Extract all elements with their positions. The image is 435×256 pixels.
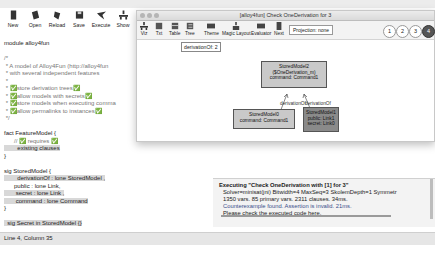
highlighted-field: derivationOf : lone StoredModel ,	[4, 175, 105, 181]
code-line: public : lone Link,	[4, 183, 136, 191]
code-comment-line: /*	[4, 55, 136, 63]
code-line: secret : lone Link ,	[4, 190, 136, 198]
instance-button-3[interactable]: 3	[409, 25, 422, 38]
table-button[interactable]: Table	[169, 22, 180, 36]
magic-layout-button[interactable]: Magic Layout	[222, 22, 251, 36]
graph-node-storedmodel1[interactable]: StoredModel1 public: Link1 secret: Link0	[303, 107, 339, 132]
node-field: secret: Link0	[304, 121, 338, 127]
code-comment-line: * ✅store derivation trees✅	[4, 85, 136, 93]
node-field: command: Command1	[234, 118, 294, 124]
code-comment-line: * ✅allow permalinks to instances✅	[4, 108, 136, 116]
viz-button[interactable]: Viz	[140, 22, 148, 36]
evaluator-icon	[257, 22, 265, 30]
output-panel: Executing "Check OneDerivation with [1] …	[213, 178, 435, 227]
reload-button[interactable]: Reload	[46, 6, 68, 32]
txt-label: Txt	[156, 31, 163, 36]
tree-button[interactable]: Tree	[185, 22, 195, 36]
output-horizontal-scrollbar[interactable]	[221, 215, 391, 217]
execute-icon	[97, 10, 106, 20]
code-line	[4, 160, 136, 168]
save-label: Save	[73, 22, 85, 28]
node-field: command: Command1	[262, 75, 326, 81]
tree-icon	[186, 22, 194, 30]
reload-icon	[53, 10, 62, 20]
instance-button-4[interactable]: 4	[422, 25, 435, 38]
code-comment-line: */	[4, 115, 136, 123]
open-button[interactable]: Open	[24, 6, 46, 32]
code-comment-line: * with several independent features	[4, 70, 136, 78]
instance-button-2[interactable]: 2	[396, 25, 409, 38]
code-line: sig StoredModel {	[4, 168, 136, 176]
cursor-position: Line 4, Column 35	[4, 235, 53, 241]
code-line: sig Secret in StoredModel {}	[4, 220, 136, 228]
open-label: Open	[29, 22, 42, 28]
graph-node-storedmodel0[interactable]: StoredModel0 command: Command1	[233, 109, 295, 129]
code-comment-line: * ✅allow models with secrets✅	[4, 93, 136, 101]
viz-icon	[140, 22, 148, 30]
status-bar	[0, 232, 435, 245]
theme-icon	[207, 22, 215, 30]
code-line: module alloy4fun	[4, 40, 136, 48]
code-comment-line: * A model of Alloy4Fun (http://alloy4fun	[4, 63, 136, 71]
graph-node-storedmodel2[interactable]: StoredModel2 ($OneDerivation_m) command:…	[261, 61, 327, 88]
highlighted-field: secret : lone Link ,	[4, 190, 64, 196]
text-icon	[155, 22, 163, 30]
next-button[interactable]: Next	[274, 22, 284, 36]
evaluator-label: Evaluator	[251, 31, 271, 36]
node-title: StoredModel1	[304, 110, 338, 116]
next-icon	[275, 22, 283, 30]
viz-label: Viz	[141, 31, 148, 36]
magic-layout-label: Magic Layout	[222, 31, 251, 36]
edge-label-derivationof: derivationOf	[280, 101, 306, 106]
magic-layout-icon	[232, 22, 240, 30]
highlighted-sig: sig Secret in StoredModel {}	[4, 220, 82, 226]
code-line: command : lone Command	[4, 198, 136, 206]
viz-window-title: [alloy4fun] Check OneDerivation for 3	[137, 12, 434, 18]
output-solver-line: Solver=minisat(jni) Bitwidth=4 MaxSeq=3 …	[223, 189, 397, 195]
code-line: derivationOf : lone StoredModel ,	[4, 175, 136, 183]
code-comment-line: // ✅ requires ✅	[4, 138, 136, 146]
instance-button-1[interactable]: 1	[383, 25, 396, 38]
viz-titlebar: [alloy4fun] Check OneDerivation for 3	[137, 11, 434, 21]
new-button[interactable]: New	[2, 6, 24, 32]
txt-button[interactable]: Txt	[155, 22, 163, 36]
code-editor[interactable]: module alloy4fun /* * A model of Alloy4F…	[4, 40, 136, 225]
derivation-tag: derivationOf: 2	[181, 42, 221, 52]
edge-label-derivationof: derivationOf	[305, 101, 331, 106]
visualizer-window: [alloy4fun] Check OneDerivation for 3 Vi…	[136, 10, 435, 142]
show-label: Show	[117, 22, 130, 28]
editor-toolbar: New Open Reload Save Execute Show	[0, 6, 142, 32]
show-button[interactable]: Show	[112, 6, 134, 32]
counterexample-link[interactable]: Counterexample found. Assertion is inval…	[223, 203, 352, 209]
theme-button[interactable]: Theme	[204, 22, 219, 36]
code-line: fact FeatureModel {	[4, 130, 136, 138]
show-icon	[119, 10, 128, 20]
projection-dropdown[interactable]: Projection: none	[289, 25, 333, 35]
code-line: existing clauses	[4, 145, 136, 153]
execute-button[interactable]: Execute	[90, 6, 112, 32]
code-line	[4, 48, 136, 56]
highlighted-clause: existing clauses	[4, 145, 60, 151]
reload-label: Reload	[49, 22, 65, 28]
save-icon	[75, 10, 84, 20]
code-comment-line: * ✅store models when executing comma	[4, 100, 136, 108]
output-executing-line: Executing "Check OneDerivation with [1] …	[219, 182, 349, 188]
output-vertical-scrollbar[interactable]	[430, 179, 433, 219]
code-comment-line: *	[4, 78, 136, 86]
new-label: New	[8, 22, 18, 28]
evaluator-button[interactable]: Evaluator	[251, 22, 271, 36]
theme-label: Theme	[204, 31, 219, 36]
code-line: }	[4, 153, 136, 161]
code-line	[4, 213, 136, 221]
table-label: Table	[169, 31, 180, 36]
instance-graph-canvas[interactable]: derivationOf: 2 StoredModel2 ($OneDeriva…	[137, 40, 434, 141]
code-line: }	[4, 205, 136, 213]
execute-label: Execute	[92, 22, 111, 28]
save-button[interactable]: Save	[68, 6, 90, 32]
viz-toolbar: Viz Txt Table Tree Theme Magic Layout Ev…	[137, 21, 434, 40]
code-line	[4, 123, 136, 131]
output-stats-line: 1350 vars. 85 primary vars. 2311 clauses…	[223, 196, 348, 202]
open-folder-icon	[31, 10, 40, 20]
highlighted-field: command : lone Command	[4, 198, 88, 204]
table-icon	[171, 22, 179, 30]
